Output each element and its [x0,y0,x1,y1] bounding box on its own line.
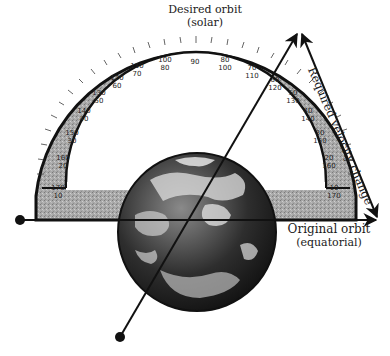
svg-text:150: 150 [65,129,78,137]
svg-text:70: 70 [133,70,142,78]
svg-text:50: 50 [95,97,104,105]
svg-text:160: 160 [322,162,335,170]
svg-text:40: 40 [80,115,89,123]
diagram-canvas: 10080 90 80100 11070 70110 12060 60120 1… [0,0,390,356]
desired-orbit-subtitle: (solar) [140,17,270,30]
svg-text:10: 10 [330,184,339,192]
svg-text:110: 110 [245,72,258,80]
svg-text:30: 30 [316,129,325,137]
svg-text:110: 110 [130,62,143,70]
svg-text:90: 90 [191,58,200,66]
desired-orbit-title: Desired orbit [140,4,270,17]
svg-text:150: 150 [313,137,326,145]
svg-text:120: 120 [268,84,281,92]
original-orbit-title: Original orbit [274,223,384,237]
svg-text:140: 140 [77,107,90,115]
svg-text:80: 80 [161,64,170,72]
svg-text:170: 170 [51,184,64,192]
svg-text:120: 120 [110,74,123,82]
svg-text:50: 50 [289,89,298,97]
svg-text:130: 130 [92,89,105,97]
svg-text:130: 130 [286,97,299,105]
original-orbit-label: Original orbit (equatorial) [274,223,384,249]
svg-text:60: 60 [113,82,122,90]
svg-text:160: 160 [56,154,69,162]
original-orbit-subtitle: (equatorial) [274,237,384,250]
svg-text:20: 20 [59,162,68,170]
svg-text:70: 70 [248,64,257,72]
earth-globe [118,153,276,311]
desired-orbit-label: Desired orbit (solar) [140,4,270,29]
svg-text:100: 100 [218,64,231,72]
svg-text:80: 80 [221,56,230,64]
svg-text:40: 40 [304,107,313,115]
svg-text:10: 10 [54,192,63,200]
svg-text:170: 170 [327,192,340,200]
svg-text:140: 140 [301,115,314,123]
svg-text:100: 100 [158,56,171,64]
svg-text:20: 20 [325,154,334,162]
svg-text:30: 30 [68,137,77,145]
